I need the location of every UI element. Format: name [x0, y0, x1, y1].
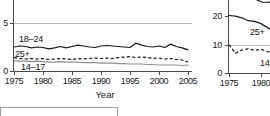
right-chart-panel: 20 10 0 1975 1980 25+ 14 — [205, 0, 270, 100]
figure-two-line-charts: 5 0 1975 1980 1985 1990 1995 2000 2005 Y… — [0, 0, 270, 116]
left-chart-panel: 5 0 1975 1980 1985 1990 1995 2000 2005 Y… — [0, 0, 200, 100]
bottom-caption-box — [0, 107, 118, 116]
left-series-label-14-17: 14–17 — [21, 63, 45, 72]
right-series-label-14: 14 — [260, 59, 270, 68]
series-line-14-right — [229, 45, 270, 54]
left-series-label-25-plus: 25+ — [15, 50, 30, 59]
left-series-plot — [0, 0, 200, 100]
right-series-plot — [205, 0, 270, 100]
right-series-label-25-plus: 25+ — [250, 28, 265, 37]
series-line-partial-top — [257, 0, 270, 5]
left-series-label-18-24: 18–24 — [19, 35, 43, 44]
series-line-18-24 — [14, 43, 188, 50]
